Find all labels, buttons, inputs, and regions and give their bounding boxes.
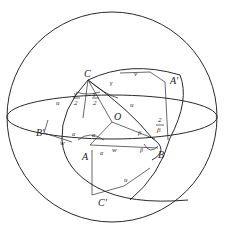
label-point-c: C [84,68,91,79]
sphere-outline [7,12,217,222]
label-gamma-right-num: γ [93,90,96,98]
label-point-o: O [114,111,121,122]
angle-arc-gamma [76,92,100,94]
label-gamma-left-num: γ [74,90,77,98]
line-o-to-b [112,122,155,139]
chord-a-b [90,145,158,148]
bracket-c-prime [92,150,150,195]
label-gamma-top: γ [110,80,113,86]
label-point-a: A [81,151,89,162]
label-point-b: B [158,149,164,160]
bracket-a-prime [120,72,168,140]
label-beta-mid: β [137,130,141,136]
arc-right-great-circle [88,69,183,200]
label-beta-top-num: β [156,126,161,134]
label-alpha-bottom: α [100,150,104,156]
label-arc-u-left: u [56,99,60,107]
line-c-down [83,80,88,118]
label-gamma-right-den: 2 [93,99,97,107]
label-gamma-left-den: 2 [74,99,78,107]
label-arc-u-right: u [130,101,134,109]
label-beta-bottom: β [139,147,143,153]
line-c-to-o [88,80,112,122]
label-point-a-prime: A′ [169,75,179,86]
label-arc-w-bottom: w [112,146,117,154]
angle-arc-beta [144,144,158,150]
bracket-b-prime [44,120,72,142]
label-point-b-prime: B′ [36,127,45,138]
sphere-diagram: C O A B A′ B′ C′ v w w u u u γ 2 γ 2 γ α… [0,0,225,239]
label-alpha-left: α [72,131,76,137]
label-point-c-prime: C′ [98,197,108,208]
label-beta-top-den: 2 [158,116,162,124]
label-arc-u-bottom: u [124,176,128,184]
label-alpha-right: α [92,132,96,138]
label-arc-w-left: w [60,139,65,147]
label-arc-v: v [134,70,138,78]
